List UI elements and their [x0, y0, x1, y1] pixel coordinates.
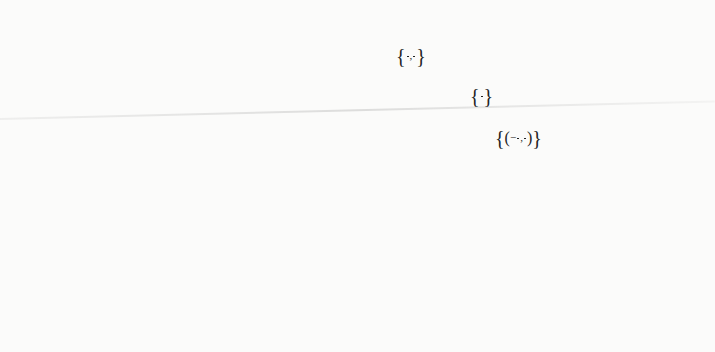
answer-8	[233, 35, 236, 46]
brace-close: }	[532, 127, 542, 149]
answer-19	[433, 140, 436, 151]
brace-open: {	[396, 45, 406, 67]
answer-13	[323, 96, 326, 107]
answer-4	[398, 17, 401, 28]
answer-6	[86, 35, 89, 46]
fraction	[517, 138, 519, 139]
answer-16	[564, 96, 567, 107]
brace-open: {	[470, 85, 480, 107]
answer-1	[18, 17, 21, 28]
answer-5	[18, 35, 21, 46]
paren-open: (	[505, 129, 510, 146]
answer-11	[323, 57, 326, 68]
answer-17	[622, 96, 625, 107]
answer-2	[189, 17, 192, 28]
brace-close: }	[484, 85, 494, 107]
answer-7	[124, 35, 127, 46]
brace-close: }	[416, 45, 426, 67]
answer-14	[406, 96, 409, 107]
fraction	[524, 138, 526, 139]
answer-21	[612, 140, 615, 151]
page-fold-shadow	[0, 101, 715, 120]
brace-open: {	[495, 127, 505, 149]
fraction	[481, 96, 483, 97]
answer-18	[323, 140, 326, 151]
answer-15: {}	[467, 86, 493, 106]
fraction-1	[407, 56, 409, 57]
answer-20: {(−,)}	[492, 128, 542, 148]
answer-12: {,}	[393, 46, 426, 66]
answer-3	[263, 17, 266, 28]
